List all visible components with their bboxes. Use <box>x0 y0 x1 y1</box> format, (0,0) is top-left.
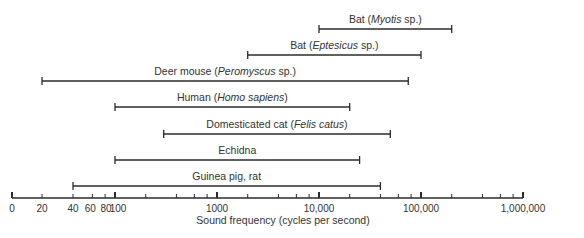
range-label: Domesticated cat (Felis catus) <box>206 118 347 130</box>
range-label: Guinea pig, rat <box>192 170 261 182</box>
range-bar-0: Bat (Myotis sp.) <box>319 13 452 33</box>
tick-label: 10,000 <box>304 203 335 214</box>
tick-label: 40 <box>67 203 79 214</box>
x-axis: 020406080100100010,000100,0001,000,000 S… <box>9 192 545 226</box>
x-axis-title: Sound frequency (cycles per second) <box>196 214 369 226</box>
range-label: Human (Homo sapiens) <box>177 91 288 103</box>
range-bars: Bat (Myotis sp.)Bat (Eptesicus sp.)Deer … <box>42 13 452 190</box>
range-label: Bat (Myotis sp.) <box>349 13 422 25</box>
range-label: Deer mouse (Peromyscus sp.) <box>154 65 296 77</box>
tick-label: 60 <box>85 203 97 214</box>
range-bar-6: Guinea pig, rat <box>73 170 380 190</box>
x-axis-tick-labels: 020406080100100010,000100,0001,000,000 <box>9 203 545 214</box>
tick-label: 1000 <box>206 203 229 214</box>
tick-label: 1,000,000 <box>501 203 546 214</box>
tick-label: 0 <box>9 203 15 214</box>
hearing-range-chart: Bat (Myotis sp.)Bat (Eptesicus sp.)Deer … <box>0 0 584 238</box>
range-label: Echidna <box>218 144 256 156</box>
range-bar-4: Domesticated cat (Felis catus) <box>164 118 391 138</box>
range-bar-5: Echidna <box>115 144 360 164</box>
tick-label: 100,000 <box>403 203 440 214</box>
tick-label: 100 <box>110 203 127 214</box>
range-bar-1: Bat (Eptesicus sp.) <box>248 39 421 59</box>
tick-label: 20 <box>36 203 48 214</box>
x-axis-ticks <box>12 192 523 198</box>
range-bar-2: Deer mouse (Peromyscus sp.) <box>42 65 408 85</box>
range-bar-3: Human (Homo sapiens) <box>115 91 350 111</box>
range-label: Bat (Eptesicus sp.) <box>290 39 378 51</box>
